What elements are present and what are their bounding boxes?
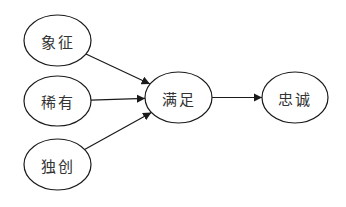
node-label-unique: 独创: [41, 154, 75, 175]
node-label-loyalty: 忠诚: [278, 87, 312, 108]
diagram-canvas: 象征稀有独创满足忠诚: [0, 0, 346, 207]
edge-rare-to-satisfaction: [91, 98, 145, 100]
edge-unique-to-satisfaction: [85, 113, 152, 150]
node-label-rare: 稀有: [41, 91, 75, 112]
node-label-symbol: 象征: [41, 30, 75, 51]
node-label-satisfaction: 满足: [162, 87, 196, 108]
edge-symbol-to-satisfaction: [86, 54, 150, 84]
